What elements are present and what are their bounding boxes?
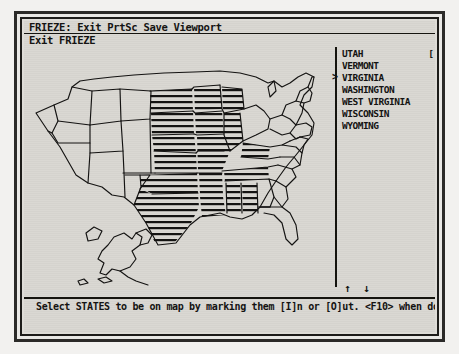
state-list-item-label: WYOMING: [342, 120, 379, 132]
state-list-item-label: UTAH: [342, 48, 363, 60]
state-list-item[interactable]: WASHINGTONo: [342, 84, 435, 96]
fkey-save-to-menu[interactable]: <F10> Save to Menu: [372, 314, 435, 332]
state-list-item[interactable]: WEST VIRGINIAo: [342, 96, 435, 108]
selected-states-fill: [134, 85, 270, 245]
state-list-item[interactable]: UTAH[ ]: [342, 48, 435, 60]
state-list-item-label: WASHINGTON: [342, 84, 394, 96]
monitor-bezel: FRIEZE: Exit PrtSc Save Viewport Exit FR…: [14, 11, 445, 342]
menu-item-exit-frieze[interactable]: Exit FRIEZE: [29, 34, 95, 46]
state-list-item-label: WISCONSIN: [342, 108, 389, 120]
crt-screen: FRIEZE: Exit PrtSc Save Viewport Exit FR…: [24, 21, 435, 332]
map-list-divider: [335, 47, 337, 287]
alaska-inset: [78, 227, 152, 285]
screenshot-root: FRIEZE: Exit PrtSc Save Viewport Exit FR…: [0, 0, 459, 354]
fkey-help[interactable]: <F1> Help: [36, 314, 104, 332]
state-list-item[interactable]: VERMONTo: [342, 60, 435, 72]
state-list-item[interactable]: VIRGINIAo: [342, 72, 435, 84]
fkey-include-all[interactable]: <F2> Include All: [154, 314, 222, 332]
instruction-text: Select STATES to be on map by marking th…: [36, 300, 435, 313]
state-list-item-label: VIRGINIA: [342, 72, 384, 84]
monitor-bezel-inner: FRIEZE: Exit PrtSc Save Viewport Exit FR…: [20, 17, 439, 336]
state-list-item[interactable]: WYOMINGo: [342, 120, 435, 132]
map-panel[interactable]: [24, 47, 334, 287]
fkey-quit-to-menu[interactable]: <Esc> Quit to Menu: [262, 314, 330, 332]
state-list-item-label: VERMONT: [342, 60, 379, 72]
bottom-bar: Select STATES to be on map by marking th…: [24, 299, 435, 332]
menu-bar-label: FRIEZE: Exit PrtSc Save Viewport: [29, 21, 222, 33]
map-outlines: [36, 71, 314, 285]
us-state-map[interactable]: [24, 47, 334, 287]
state-list-item-marker: [ ]: [428, 48, 435, 60]
state-list-item-label: WEST VIRGINIA: [342, 96, 410, 108]
state-list-cursor-arrow: >: [332, 72, 338, 82]
menu-bar[interactable]: FRIEZE: Exit PrtSc Save Viewport: [24, 21, 435, 34]
state-list-item[interactable]: WISCONSINo: [342, 108, 435, 120]
scroll-arrows-icon: ↑ ↓: [344, 283, 373, 294]
state-list[interactable]: UTAH[ ]VERMONToVIRGINIAoWASHINGTONoWEST …: [342, 48, 435, 132]
